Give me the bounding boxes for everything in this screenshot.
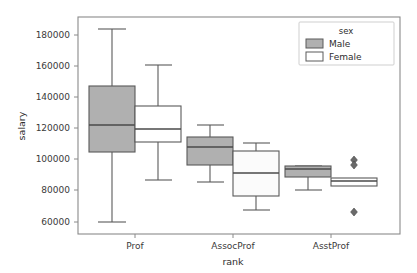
x-tick-label-assocprof: AssocProf [211, 241, 255, 251]
y-tick-label-140000: 140000 [36, 92, 71, 102]
legend: sex Male Female [299, 22, 394, 65]
legend-label-male: Male [329, 39, 351, 49]
legend-title: sex [339, 26, 354, 36]
legend-swatch-female[interactable] [306, 52, 323, 61]
x-axis-tickmarks [135, 234, 331, 238]
legend-label-female: Female [329, 52, 362, 62]
box-prof-male-rect [89, 86, 135, 152]
y-tick-label-120000: 120000 [36, 123, 71, 133]
y-tick-label-180000: 180000 [36, 30, 71, 40]
x-axis-title: rank [222, 256, 244, 267]
box-assocprof-male-rect [187, 137, 233, 165]
x-axis-tick-labels: Prof AssocProf AsstProf [126, 241, 350, 251]
box-asstprof-male-rect [285, 166, 331, 177]
box-prof-female-rect [135, 106, 181, 142]
legend-swatch-male[interactable] [306, 39, 323, 48]
y-tick-label-60000: 60000 [41, 217, 70, 227]
y-axis-tick-labels: 60000 80000 100000 120000 140000 160000 … [36, 30, 71, 227]
boxplot-chart: 60000 80000 100000 120000 140000 160000 … [0, 0, 417, 273]
y-tick-label-100000: 100000 [36, 154, 71, 164]
x-tick-label-prof: Prof [126, 241, 144, 251]
box-asstprof-female-rect [331, 178, 377, 186]
y-tick-label-80000: 80000 [41, 185, 70, 195]
y-axis-tickmarks [74, 35, 78, 222]
x-tick-label-asstprof: AsstProf [313, 241, 350, 251]
figure-canvas: 60000 80000 100000 120000 140000 160000 … [0, 0, 417, 273]
y-axis-title: salary [16, 111, 27, 140]
y-tick-label-160000: 160000 [36, 61, 71, 71]
